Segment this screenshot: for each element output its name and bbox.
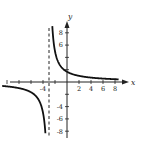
svg-text:-8: -8 (57, 128, 63, 136)
svg-text:-4: -4 (57, 103, 63, 111)
svg-text:8: 8 (113, 85, 117, 93)
svg-text:2: 2 (77, 85, 81, 93)
curve-left-branch (2, 86, 45, 133)
y-axis-label: y (67, 12, 73, 21)
svg-text:-4: -4 (40, 85, 46, 93)
x-axis-label: x (131, 78, 136, 87)
svg-text:4: 4 (89, 85, 93, 93)
function-graph: -4246886-4-6-8 x y (0, 0, 141, 146)
svg-text:6: 6 (101, 85, 105, 93)
svg-text:-6: -6 (57, 115, 63, 123)
svg-text:6: 6 (59, 41, 63, 49)
svg-text:8: 8 (59, 29, 63, 37)
